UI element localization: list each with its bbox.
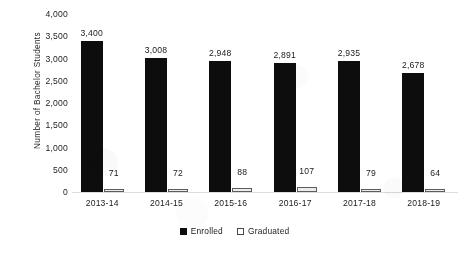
- y-axis-tick-label: 3,500: [24, 31, 68, 41]
- x-axis-tick-labels: 2013-142014-152015-162016-172017-182018-…: [72, 198, 458, 214]
- x-axis-tick-label: 2014-15: [150, 198, 183, 208]
- x-axis-tick-label: 2017-18: [343, 198, 376, 208]
- bar-graduated: [297, 187, 317, 192]
- bar-group: 3,40071: [72, 14, 136, 192]
- bar-value-label-enrolled: 2,948: [209, 48, 232, 58]
- x-axis-tick-label: 2015-16: [214, 198, 247, 208]
- bar-value-label-graduated: 72: [173, 168, 183, 178]
- open-square-marker-icon: [237, 228, 244, 235]
- bar-value-label-graduated: 79: [366, 168, 376, 178]
- x-axis-tick-label: 2018-19: [407, 198, 440, 208]
- y-axis-tick-label: 2,000: [24, 98, 68, 108]
- bar-graduated: [104, 189, 124, 192]
- bar-group: 2,94888: [201, 14, 265, 192]
- bar-value-label-graduated: 107: [299, 166, 314, 176]
- legend-item-enrolled: Enrolled: [180, 226, 223, 236]
- bar-value-label-enrolled: 2,678: [402, 60, 425, 70]
- bar-value-label-enrolled: 2,891: [273, 50, 296, 60]
- chart-figure: Number of Bachelor Students 05001,0001,5…: [0, 0, 469, 254]
- bar-graduated: [361, 189, 381, 193]
- y-axis-tick-label: 0: [24, 187, 68, 197]
- y-axis-tick-label: 2,500: [24, 76, 68, 86]
- bar-value-label-graduated: 88: [237, 167, 247, 177]
- bar-group: 2,93579: [329, 14, 393, 192]
- plot-area: 3,400713,008722,948882,8911072,935792,67…: [72, 14, 458, 192]
- bar-enrolled: [81, 41, 103, 192]
- legend-label-enrolled: Enrolled: [191, 226, 223, 236]
- bar-enrolled: [145, 58, 167, 192]
- bar-value-label-graduated: 71: [109, 168, 119, 178]
- bar-enrolled: [338, 61, 360, 192]
- bar-enrolled: [274, 63, 296, 192]
- bar-graduated: [425, 189, 445, 192]
- x-axis-tick-label: 2013-14: [86, 198, 119, 208]
- bar-value-label-enrolled: 3,008: [145, 45, 168, 55]
- bar-value-label-graduated: 64: [430, 168, 440, 178]
- bar-enrolled: [402, 73, 424, 192]
- y-axis-tick-label: 1,000: [24, 143, 68, 153]
- y-axis-tick-label: 3,000: [24, 54, 68, 64]
- y-axis-tick-labels: 05001,0001,5002,0002,5003,0003,5004,000: [24, 0, 68, 254]
- bar-value-label-enrolled: 3,400: [80, 28, 103, 38]
- legend-label-graduated: Graduated: [248, 226, 289, 236]
- bar-group: 2,67864: [394, 14, 458, 192]
- x-axis-tick-label: 2016-17: [279, 198, 312, 208]
- chart-legend: Enrolled Graduated: [0, 226, 469, 236]
- bar-enrolled: [209, 61, 231, 192]
- bar-graduated: [168, 189, 188, 192]
- y-axis-tick-label: 500: [24, 165, 68, 175]
- bar-graduated: [232, 188, 252, 192]
- bar-group: 2,891107: [265, 14, 329, 192]
- bar-value-label-enrolled: 2,935: [338, 48, 361, 58]
- x-axis-line: [72, 192, 458, 193]
- bar-group: 3,00872: [136, 14, 200, 192]
- y-axis-tick-label: 1,500: [24, 120, 68, 130]
- y-axis-tick-label: 4,000: [24, 9, 68, 19]
- legend-item-graduated: Graduated: [237, 226, 289, 236]
- filled-square-marker-icon: [180, 228, 187, 235]
